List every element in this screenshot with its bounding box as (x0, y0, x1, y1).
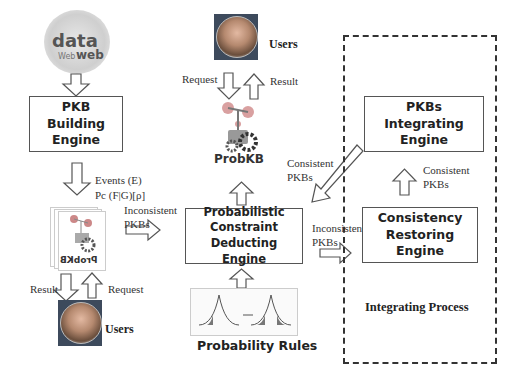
arrow-down-icon (63, 74, 89, 96)
arrow-up-icon (230, 269, 253, 288)
consistent-pkbs-label-1: Consistent PKBs (287, 157, 333, 185)
probkb-graph-icon (64, 213, 104, 253)
users-avatar-top (214, 14, 258, 60)
request-bottom-label: Request (108, 283, 143, 297)
probkb-mirrored-logo: ProbKB (60, 255, 98, 265)
probabilistic-constraint-deducting-engine: Probabilistic Constraint Deducting Engin… (185, 208, 303, 264)
users-avatar-bottom (58, 300, 102, 346)
consistency-restoring-engine: Consistency Restoring Engine (362, 207, 478, 263)
result-top-label: Result (270, 75, 298, 89)
arrow-down-icon (64, 163, 90, 195)
pkb-building-engine: PKB Building Engine (29, 96, 123, 152)
request-top-label: Request (182, 73, 217, 87)
distribution-curves-icon (191, 289, 297, 335)
arrow-up-icon (230, 182, 253, 205)
pkbs-integrating-engine: PKBs Integrating Engine (364, 96, 484, 152)
probability-rules-label: Probability Rules (197, 338, 317, 353)
pkb-documents-stack: ProbKB (50, 207, 106, 271)
pc-label: Pc (F|G)[ρ] (95, 189, 145, 203)
events-label: Events (E) (95, 174, 142, 188)
probkb-graph-icon (218, 100, 274, 156)
arrow-up-icon (82, 273, 102, 298)
probkb-logo: ProbKB (214, 100, 270, 168)
arrow-down-icon (218, 73, 240, 99)
users-bottom-label: Users (105, 322, 134, 337)
inconsistent-pkbs-label-1: Inconsistent PKBs (124, 204, 177, 232)
result-bottom-label: Result (30, 283, 58, 297)
arrow-up-icon (244, 74, 264, 99)
probkb-label: ProbKB (214, 152, 264, 166)
users-top-label: Users (269, 37, 298, 52)
probability-rules-image (190, 288, 298, 336)
consistent-pkbs-label-2: Consistent PKBs (423, 164, 469, 192)
integrating-process-label: Integrating Process (365, 300, 469, 315)
